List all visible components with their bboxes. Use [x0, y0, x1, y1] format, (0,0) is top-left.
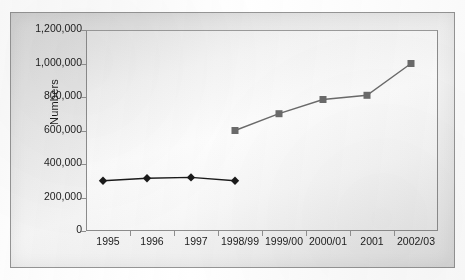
y-axis-tick-mark [81, 64, 86, 65]
x-axis-ticks: 1995199619971998/991999/002000/012001200… [86, 233, 438, 253]
y-axis-tick-mark [81, 131, 86, 132]
y-axis-tick-mark [81, 231, 86, 232]
data-point-diamond [99, 177, 107, 185]
x-axis-tick-label: 2000/01 [309, 235, 347, 247]
x-axis-tick-label: 1996 [140, 235, 163, 247]
y-axis-tick-label: 400,000 [18, 156, 82, 168]
data-point-square [364, 92, 371, 99]
chart-screenshot: Numbers 0200,000400,000600,000800,0001,0… [0, 0, 465, 280]
y-axis-tick-label: 1,000,000 [18, 56, 82, 68]
x-axis-tick-mark [350, 231, 351, 236]
y-axis-tick-mark [81, 198, 86, 199]
y-axis-ticks: 0200,000400,000600,000800,0001,000,0001,… [14, 0, 82, 201]
series-line-series-1 [103, 177, 235, 180]
y-axis-tick-mark [81, 97, 86, 98]
data-point-diamond [231, 177, 239, 185]
x-axis-tick-label: 1997 [184, 235, 207, 247]
data-point-square [276, 110, 283, 117]
y-axis-tick-mark [81, 164, 86, 165]
x-axis-tick-mark [130, 231, 131, 236]
data-point-diamond [143, 174, 151, 182]
x-axis-tick-label: 2002/03 [397, 235, 435, 247]
x-axis-tick-mark [306, 231, 307, 236]
y-axis-tick-mark [81, 30, 86, 31]
y-axis-tick-label: 0 [18, 223, 82, 235]
y-axis-tick-label: 800,000 [18, 89, 82, 101]
data-point-square [320, 96, 327, 103]
x-axis-tick-label: 1998/99 [221, 235, 259, 247]
y-axis-tick-label: 600,000 [18, 123, 82, 135]
data-point-square [408, 60, 415, 67]
x-axis-tick-label: 1999/00 [265, 235, 303, 247]
x-axis-tick-mark [218, 231, 219, 236]
x-axis-tick-label: 2001 [360, 235, 383, 247]
x-axis-tick-mark [174, 231, 175, 236]
x-axis-tick-label: 1995 [96, 235, 119, 247]
y-axis-tick-label: 200,000 [18, 190, 82, 202]
data-point-diamond [187, 173, 195, 181]
x-axis-tick-mark [262, 231, 263, 236]
y-axis-tick-label: 1,200,000 [18, 22, 82, 34]
x-axis-tick-mark [394, 231, 395, 236]
data-point-square [232, 127, 239, 134]
series-layer [86, 30, 438, 231]
